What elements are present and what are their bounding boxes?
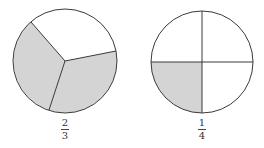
denominator: 4	[192, 131, 212, 141]
fraction-diagram	[0, 0, 264, 148]
numerator: 1	[192, 118, 212, 128]
denominator: 3	[55, 131, 75, 141]
fraction-label-one-quarter: 1 4	[192, 118, 212, 141]
circle-quarters	[151, 11, 253, 113]
shaded-quadrant	[151, 62, 202, 113]
fraction-label-two-thirds: 2 3	[55, 118, 75, 141]
circle-thirds	[13, 9, 117, 113]
numerator: 2	[55, 118, 75, 128]
